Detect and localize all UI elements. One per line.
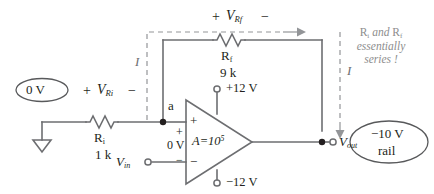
annotation-line3: series ! bbox=[364, 53, 398, 65]
annotation-rf: Rf bbox=[392, 26, 402, 38]
resistor-rf-symbol bbox=[213, 34, 245, 46]
node-a-label: a bbox=[168, 99, 174, 112]
source-voltage-label: 0 V bbox=[26, 83, 45, 96]
terminal-supply-negative bbox=[214, 180, 220, 186]
terminal-supply-positive bbox=[214, 86, 220, 92]
supply-negative-label: −12 V bbox=[226, 176, 257, 189]
output-rail-value: −10 V bbox=[371, 127, 404, 140]
terminal-vout bbox=[330, 139, 336, 145]
annotation-and: and bbox=[369, 26, 392, 38]
current-label-left: I bbox=[135, 55, 139, 68]
diff-polarity-plus: + bbox=[176, 126, 183, 138]
vin-label: Vin bbox=[116, 155, 130, 168]
junction-dot-output bbox=[319, 139, 325, 145]
ri-value-label: 1 k bbox=[95, 148, 111, 161]
rf-voltage-label: VRf bbox=[226, 9, 242, 23]
vout-label: Vout bbox=[339, 135, 357, 148]
ri-name-label: Ri bbox=[94, 131, 105, 144]
terminal-vin bbox=[145, 159, 151, 165]
annotation-line2: essentially bbox=[357, 40, 406, 52]
rf-value-label: 9 k bbox=[220, 66, 236, 79]
supply-positive-label: +12 V bbox=[226, 82, 257, 95]
ri-polarity-minus: − bbox=[128, 84, 136, 98]
rf-name-label: Rf bbox=[221, 49, 232, 62]
ground-icon bbox=[33, 140, 51, 152]
annotation-ri: Ri bbox=[360, 26, 370, 38]
annotation-note: Ri and Rf essentially series ! bbox=[333, 26, 429, 67]
opamp-gain-label: A=105 bbox=[192, 135, 224, 148]
rf-polarity-plus: + bbox=[212, 10, 220, 24]
output-rail-text: rail bbox=[378, 144, 395, 157]
resistor-ri-symbol bbox=[86, 116, 118, 128]
diff-voltage-label: 0 V bbox=[167, 139, 184, 151]
rf-polarity-minus: − bbox=[261, 10, 269, 24]
current-arrow-top-head bbox=[297, 28, 306, 37]
junction-dot-node-a bbox=[160, 119, 166, 125]
opamp-plus-input-label: + bbox=[190, 114, 197, 127]
diff-polarity-minus: − bbox=[176, 154, 183, 166]
ri-polarity-plus: + bbox=[83, 84, 91, 98]
opamp-minus-input-label: − bbox=[190, 155, 197, 168]
ri-voltage-label: VRi bbox=[97, 83, 113, 97]
